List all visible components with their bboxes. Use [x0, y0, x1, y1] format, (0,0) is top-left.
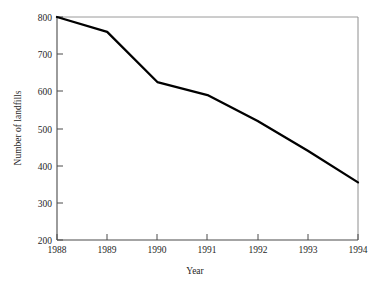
chart-canvas: 800 700 600 500 400 300 200 1988 1989 19…	[0, 0, 389, 285]
y-tick-label-400: 400	[38, 162, 53, 172]
x-axis-title: Year	[186, 266, 204, 276]
data-series-line	[57, 17, 358, 182]
x-tick-label-1989: 1989	[98, 245, 117, 255]
y-tick-label-500: 500	[38, 125, 53, 135]
x-tick-labels: 1988 1989 1990 1991 1992 1993 1994	[48, 245, 368, 255]
y-axis-title: Number of landfills	[13, 90, 23, 165]
plot-frame	[57, 17, 358, 240]
y-tick-label-600: 600	[38, 87, 53, 97]
y-axis-ticks	[57, 17, 63, 240]
y-tick-label-800: 800	[38, 13, 53, 23]
x-tick-label-1990: 1990	[148, 245, 167, 255]
x-tick-label-1994: 1994	[349, 245, 368, 255]
x-tick-label-1988: 1988	[48, 245, 67, 255]
y-tick-label-700: 700	[38, 50, 53, 60]
x-tick-label-1991: 1991	[198, 245, 217, 255]
x-tick-label-1993: 1993	[299, 245, 318, 255]
y-tick-labels: 800 700 600 500 400 300 200	[38, 13, 53, 246]
y-tick-label-300: 300	[38, 199, 53, 209]
y-tick-label-200: 200	[38, 236, 53, 246]
x-axis-ticks	[57, 234, 358, 240]
x-tick-label-1992: 1992	[249, 245, 268, 255]
landfills-line-chart: 800 700 600 500 400 300 200 1988 1989 19…	[0, 0, 389, 285]
